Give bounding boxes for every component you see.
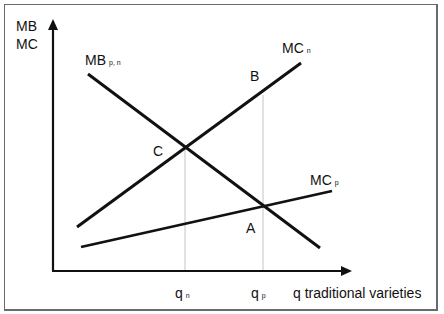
tick-label-qp: qp: [251, 286, 266, 300]
curve-label-mb: MBp, n: [85, 53, 121, 67]
point-label-b: B: [250, 69, 259, 83]
diagram-canvas: [0, 0, 444, 314]
y-axis-label-mb: MB: [16, 19, 37, 33]
curve-mc-p: [81, 191, 332, 247]
curve-mb: [88, 74, 320, 248]
x-axis-label: q traditional varieties: [293, 286, 421, 300]
curve-label-mc-n: MCn: [282, 41, 311, 55]
y-axis-arrow-icon: [48, 19, 58, 30]
point-label-a: A: [246, 221, 255, 235]
tick-label-qn: qn: [175, 286, 190, 300]
curve-mc-n: [77, 63, 301, 227]
x-axis-arrow-icon: [341, 266, 352, 276]
curve-label-mc-p: MCp: [310, 173, 339, 187]
y-axis-label-mc: MC: [16, 37, 38, 51]
point-label-c: C: [153, 144, 163, 158]
